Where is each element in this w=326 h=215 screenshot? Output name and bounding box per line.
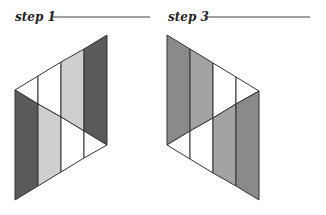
step-1-figure [15, 35, 107, 200]
lower-mid-strip [213, 104, 236, 186]
upper-dark-strip [167, 35, 190, 145]
diagram-canvas [0, 0, 326, 215]
lower-dark-strip [236, 91, 259, 200]
lower-light-strip [38, 104, 61, 186]
step-3-figure [167, 35, 259, 200]
upper-mid-strip [190, 49, 213, 131]
lower-dark-strip [15, 90, 38, 200]
upper-dark-strip [84, 35, 107, 145]
